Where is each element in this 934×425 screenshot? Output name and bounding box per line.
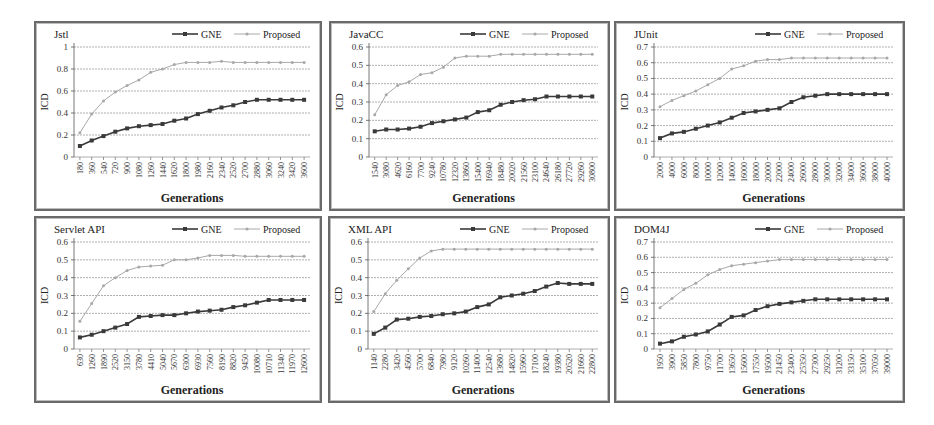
y-tick-label: 1 — [64, 42, 69, 52]
x-tick-label: 1950 — [656, 354, 665, 370]
y-tick-label: 0.4 — [637, 283, 649, 293]
x-tick-label: 3780 — [135, 354, 144, 370]
y-tick-label: 0.3 — [637, 298, 649, 308]
x-tick-label: 9450 — [241, 354, 250, 370]
legend-proposed-label: Proposed — [551, 224, 588, 235]
x-tick-label: 19380 — [554, 354, 563, 374]
x-tick-label: 6160 — [405, 162, 414, 178]
x-tick-label: 3080 — [382, 162, 391, 178]
chart-panel-dom4j: DOM4JGNEProposed00.10.20.30.40.50.60.7IC… — [614, 216, 905, 403]
x-axis-label: Generations — [742, 383, 805, 397]
chart-title: Jstl — [54, 28, 69, 40]
line-chart: DOM4JGNEProposed00.10.20.30.40.50.60.7IC… — [616, 218, 903, 401]
x-tick-label: 1260 — [147, 162, 156, 178]
x-tick-label: 30800 — [588, 162, 597, 182]
y-tick-label: 0.7 — [637, 237, 649, 247]
y-tick-label: 0.1 — [637, 329, 648, 339]
y-tick-label: 0.5 — [352, 60, 364, 70]
legend-gne-label: GNE — [201, 29, 222, 40]
y-axis-label: ICD — [333, 287, 344, 304]
x-tick-label: 3900 — [668, 354, 677, 370]
series-proposed-line — [374, 249, 593, 312]
x-tick-label: 37050 — [871, 354, 880, 374]
series-gne-line — [660, 299, 887, 343]
y-tick-label: 0.6 — [637, 58, 649, 68]
y-tick-label: 0.4 — [351, 273, 363, 283]
series-gne-line — [80, 100, 304, 146]
y-tick-label: 0 — [644, 344, 649, 354]
x-tick-label: 22800 — [588, 354, 597, 374]
x-tick-label: 4560 — [404, 354, 413, 370]
x-tick-label: 2160 — [206, 162, 215, 178]
y-tick-label: 0.6 — [351, 237, 363, 247]
x-tick-label: 10260 — [462, 354, 471, 374]
x-tick-label: 3150 — [123, 354, 132, 370]
y-tick-label: 0.3 — [57, 291, 69, 301]
y-tick-label: 0.6 — [57, 86, 69, 96]
legend-proposed-label: Proposed — [263, 29, 300, 40]
x-tick-label: 4410 — [147, 354, 156, 370]
x-tick-label: 5700 — [416, 354, 425, 370]
x-tick-label: 8190 — [218, 354, 227, 370]
x-tick-label: 1620 — [170, 162, 179, 178]
x-tick-label: 360 — [88, 162, 97, 174]
x-tick-label: 14000 — [728, 162, 737, 182]
x-tick-label: 720 — [111, 162, 120, 174]
x-tick-label: 2340 — [218, 162, 227, 178]
x-tick-label: 10710 — [265, 354, 274, 374]
legend-gne-label: GNE — [489, 29, 510, 40]
chart-title: Servlet API — [54, 223, 105, 235]
x-tick-label: 1260 — [88, 354, 97, 370]
x-tick-label: 27720 — [565, 162, 574, 182]
x-tick-label: 3420 — [393, 354, 402, 370]
x-tick-label: 21560 — [520, 162, 529, 182]
legend-proposed-label: Proposed — [846, 224, 883, 235]
x-tick-label: 12540 — [485, 354, 494, 374]
legend: GNEProposed — [755, 224, 883, 235]
x-tick-label: 900 — [123, 162, 132, 174]
x-tick-label: 15960 — [519, 354, 528, 374]
x-tick-label: 2280 — [381, 354, 390, 370]
y-axis-label: ICD — [39, 93, 50, 110]
x-tick-label: 33150 — [847, 354, 856, 374]
y-tick-label: 0 — [64, 344, 69, 354]
x-tick-label: 2700 — [241, 162, 250, 178]
chart-panel-servlet-api: Servlet APIGNEProposed00.10.20.30.40.50.… — [34, 216, 322, 403]
x-tick-label: 12000 — [716, 162, 725, 182]
y-tick-label: 0.2 — [352, 115, 363, 125]
x-tick-label: 20000 — [764, 162, 773, 182]
x-tick-label: 11970 — [288, 354, 297, 374]
y-tick-label: 0 — [359, 152, 364, 162]
x-tick-label: 30000 — [823, 162, 832, 182]
x-tick-label: 6840 — [427, 354, 436, 370]
series-proposed-line — [80, 61, 304, 133]
chart-panel-jstl: JstlGNEProposed00.20.40.60.81ICD18036054… — [34, 21, 322, 211]
x-tick-label: 9120 — [450, 354, 459, 370]
chart-panel-javacc: JavaCCGNEProposed00.10.20.30.40.50.6ICD1… — [329, 21, 610, 211]
x-tick-label: 32000 — [835, 162, 844, 182]
x-tick-label: 7800 — [692, 354, 701, 370]
legend: GNEProposed — [172, 224, 300, 235]
x-tick-label: 23400 — [787, 354, 796, 374]
x-tick-label: 23100 — [531, 162, 540, 182]
y-tick-label: 0.6 — [352, 42, 364, 52]
chart-title: DOM4J — [634, 223, 670, 235]
x-tick-label: 2000 — [656, 162, 665, 178]
line-chart: JavaCCGNEProposed00.10.20.30.40.50.6ICD1… — [331, 23, 608, 209]
legend-proposed-label: Proposed — [263, 224, 300, 235]
x-tick-label: 1140 — [370, 354, 379, 370]
x-tick-label: 5040 — [159, 354, 168, 370]
y-tick-label: 0.1 — [57, 326, 68, 336]
x-tick-label: 3060 — [265, 162, 274, 178]
x-tick-label: 1800 — [182, 162, 191, 178]
x-tick-label: 5850 — [680, 354, 689, 370]
y-tick-label: 0.2 — [637, 121, 648, 131]
x-tick-label: 24000 — [787, 162, 796, 182]
legend-proposed-label: Proposed — [846, 29, 883, 40]
series-proposed-line — [80, 255, 304, 321]
y-tick-label: 0.1 — [637, 136, 648, 146]
x-tick-label: 4620 — [394, 162, 403, 178]
x-tick-label: 25350 — [799, 354, 808, 374]
x-tick-label: 10080 — [253, 354, 262, 374]
x-tick-label: 180 — [76, 162, 85, 174]
